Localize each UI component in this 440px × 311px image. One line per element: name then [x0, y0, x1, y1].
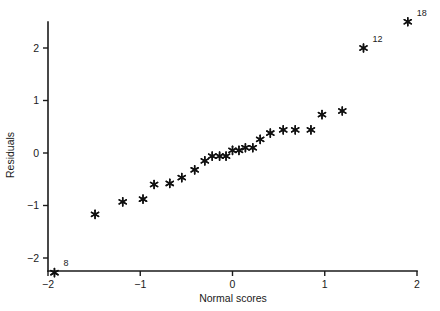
data-point-marker [318, 111, 325, 119]
data-point-marker [292, 126, 299, 134]
scatter-plot-canvas: −2−1012−2−1012 81218 Normal scores Resid… [0, 0, 440, 311]
y-axis-title: Residuals [4, 132, 16, 178]
data-point-marker [249, 144, 256, 152]
data-point-marker [91, 210, 98, 218]
data-point-marker [267, 129, 274, 137]
point-annotation-18: 18 [417, 8, 427, 18]
data-point-marker [404, 18, 411, 26]
y-tick-label-3: 1 [33, 94, 39, 106]
y-tick-label-2: 0 [33, 147, 39, 159]
x-tick-label-2: 0 [230, 278, 236, 290]
data-point-marker [51, 269, 58, 277]
data-point-marker [307, 126, 314, 134]
data-point-marker [201, 157, 208, 165]
data-point-marker [119, 198, 126, 206]
point-annotation-8: 8 [63, 258, 68, 268]
data-point-marker [229, 146, 236, 154]
data-point-marker [360, 44, 367, 52]
normal-probability-plot-figure: −2−1012−2−1012 81218 Normal scores Resid… [0, 0, 440, 311]
x-axis-title: Normal scores [199, 292, 267, 304]
data-point-marker [222, 152, 229, 160]
data-point-marker [191, 166, 198, 174]
data-point-marker [139, 195, 146, 203]
data-point-marker [257, 135, 264, 143]
x-tick-label-3: 1 [322, 278, 328, 290]
point-annotation-12: 12 [372, 34, 382, 44]
y-tick-label-1: −1 [27, 199, 39, 211]
y-tick-label-4: 2 [33, 42, 39, 54]
data-point-marker [178, 174, 185, 182]
data-points-group [51, 18, 411, 277]
point-annotations-group: 81218 [63, 8, 426, 268]
data-point-marker [216, 152, 223, 160]
data-point-marker [209, 152, 216, 160]
data-point-marker [151, 180, 158, 188]
data-point-marker [339, 107, 346, 115]
data-point-marker [280, 126, 287, 134]
ticks-group [43, 48, 417, 276]
y-tick-label-0: −2 [27, 252, 39, 264]
tick-labels-group: −2−1012−2−1012 [27, 42, 420, 290]
data-point-marker [166, 179, 173, 187]
x-tick-label-1: −1 [134, 278, 146, 290]
x-tick-label-0: −2 [42, 278, 54, 290]
x-tick-label-4: 2 [414, 278, 420, 290]
